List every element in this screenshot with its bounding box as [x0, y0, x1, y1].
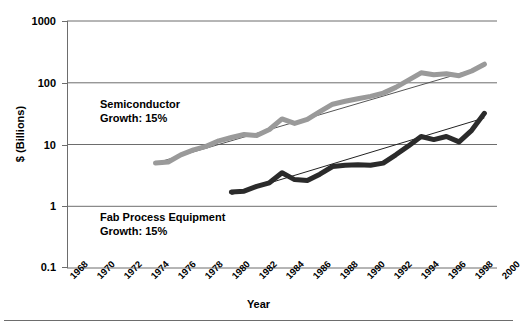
footer-divider [4, 320, 513, 321]
fab-equipment-annotation: Fab Process Equipment Growth: 15% [100, 211, 225, 238]
fab-equipment-annotation-line2: Growth: 15% [100, 225, 225, 239]
semiconductor-annotation: Semiconductor Growth: 15% [100, 98, 180, 125]
semiconductor-annotation-line1: Semiconductor [100, 98, 180, 110]
y-axis-title: $ (Billions) [14, 84, 26, 184]
y-tick-label-1: 1 [12, 201, 56, 212]
semiconductor-annotation-line2: Growth: 15% [100, 112, 180, 126]
y-tick-label-0.1: 0.1 [12, 262, 56, 273]
y-tick-label-1000: 1000 [12, 16, 56, 27]
x-axis-title: Year [0, 298, 517, 310]
y-tick-marks [62, 22, 67, 268]
fab-equipment-annotation-line1: Fab Process Equipment [100, 211, 225, 223]
